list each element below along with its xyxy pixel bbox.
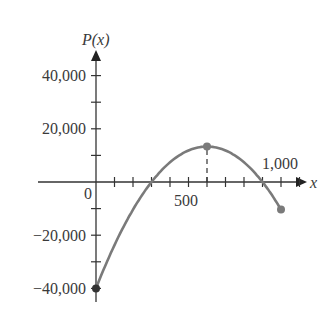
highlighted-points [92, 143, 285, 293]
y-axis-arrow-icon [91, 50, 101, 61]
x-tick-label-1000: 1,000 [262, 155, 298, 172]
point-maximum [203, 143, 211, 151]
origin-label: 0 [84, 185, 92, 202]
y-tick-label-neg40000: −40,000 [33, 280, 86, 297]
y-tick-label-neg20000: −20,000 [33, 227, 86, 244]
chart: P(x) x 0 500 1,000 40,000 20,000 −20,000… [0, 0, 332, 321]
y-axis-label: P(x) [81, 31, 110, 49]
y-tick-label-40000: 40,000 [42, 67, 86, 84]
axes [38, 50, 307, 302]
point-end [277, 206, 285, 214]
profit-curve [96, 147, 281, 289]
x-axis-label: x [309, 174, 317, 191]
x-axis-arrow-icon [296, 177, 307, 187]
x-tick-label-500: 500 [174, 192, 198, 209]
point-start [92, 284, 100, 292]
y-tick-label-20000: 20,000 [42, 120, 86, 137]
